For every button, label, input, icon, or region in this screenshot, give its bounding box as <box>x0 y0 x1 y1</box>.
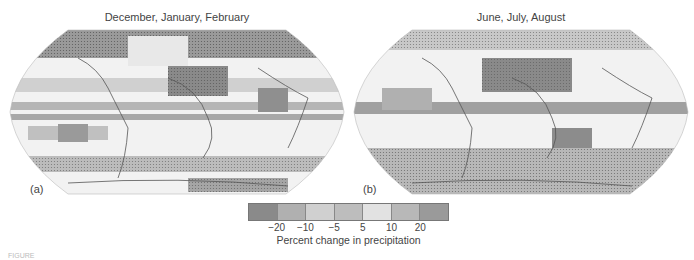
legend-swatch <box>335 204 364 220</box>
legend-tick: 10 <box>386 222 397 233</box>
legend-ticks: −20 −10 −5 5 10 20 <box>248 222 449 234</box>
legend-swatch <box>420 204 448 220</box>
legend-swatch <box>363 204 392 220</box>
legend-swatch <box>249 204 278 220</box>
legend-tick: −10 <box>297 222 314 233</box>
legend-tick: 20 <box>415 222 426 233</box>
color-legend <box>248 203 449 221</box>
legend-swatch <box>306 204 335 220</box>
panel-b-title: June, July, August <box>352 11 690 23</box>
legend-tick: −20 <box>268 222 285 233</box>
panel-a-title: December, January, February <box>8 11 346 23</box>
panel-a-label: (a) <box>30 183 43 195</box>
map-panel-a <box>8 28 346 196</box>
panel-b-label: (b) <box>363 183 376 195</box>
legend-swatch <box>278 204 307 220</box>
legend-title: Percent change in precipitation <box>248 234 449 246</box>
legend-tick: −5 <box>328 222 339 233</box>
map-panel-b <box>352 28 690 196</box>
legend-tick: 5 <box>360 222 366 233</box>
figure-caption: FIGURE <box>8 252 34 259</box>
legend-swatch <box>392 204 421 220</box>
